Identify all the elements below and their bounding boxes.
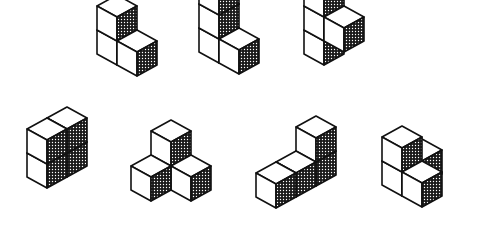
cube [117, 30, 157, 76]
cube [171, 155, 211, 201]
figure-3 [304, 0, 364, 65]
cube [324, 6, 364, 52]
figure-4 [27, 107, 87, 188]
cube [256, 162, 296, 208]
cube-figures-canvas [0, 0, 495, 235]
figure-7 [382, 126, 442, 207]
figure-2 [199, 0, 259, 74]
figure-6 [256, 116, 336, 208]
figure-1 [97, 0, 157, 76]
cube [27, 118, 67, 164]
cube [219, 28, 259, 74]
figures-group [27, 0, 442, 208]
cube [131, 155, 171, 201]
cube [402, 161, 442, 207]
figure-5 [131, 120, 211, 201]
